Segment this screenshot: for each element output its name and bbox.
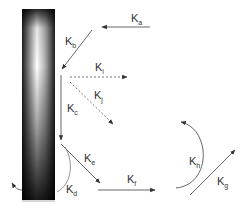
label-kc: Kc bbox=[67, 102, 78, 116]
arrow-kj: Kj bbox=[70, 82, 113, 124]
arrow-kf: Kf bbox=[98, 173, 155, 190]
arrow-kb: Kb bbox=[62, 30, 92, 69]
label-kb: Kb bbox=[65, 35, 76, 49]
arrow-kc: Kc bbox=[61, 75, 78, 140]
label-kh: Kh bbox=[189, 155, 200, 169]
surface-bar bbox=[22, 9, 55, 201]
label-ki: Ki bbox=[95, 61, 104, 75]
arrow-ki: Ki bbox=[70, 61, 127, 77]
label-kf: Kf bbox=[127, 173, 136, 187]
label-ka: Ka bbox=[131, 12, 142, 26]
label-kj: Kj bbox=[94, 89, 103, 104]
label-kd: Kd bbox=[66, 183, 77, 197]
arrow-ka: Ka bbox=[102, 12, 150, 27]
arrow-kh: Kh bbox=[176, 122, 203, 188]
label-ke: Ke bbox=[84, 152, 95, 166]
rate-constant-diagram: Ka Kb Ki Kj Kc Ke Kd Kf Kh bbox=[0, 0, 248, 206]
arrow-kg: Kg bbox=[190, 150, 235, 195]
label-kg: Kg bbox=[217, 175, 228, 190]
